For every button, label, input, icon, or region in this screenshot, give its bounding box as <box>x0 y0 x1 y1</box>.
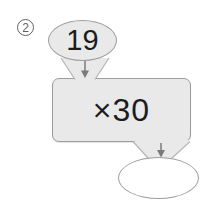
problem-number-text: 2 <box>22 22 29 34</box>
operation-box: ×30 <box>52 78 191 142</box>
answer-ellipse[interactable] <box>118 157 199 199</box>
problem-number-circle: 2 <box>17 19 34 36</box>
operation-text: ×30 <box>93 94 150 126</box>
worksheet-figure: 2 ×30 19 <box>0 0 210 214</box>
bottom-connector-funnel <box>133 140 190 158</box>
input-value-text: 19 <box>66 26 98 55</box>
top-connector-funnel <box>61 58 109 80</box>
down-arrow-icon <box>157 143 165 158</box>
down-arrow-icon <box>81 60 89 78</box>
input-value-ellipse: 19 <box>48 20 117 61</box>
